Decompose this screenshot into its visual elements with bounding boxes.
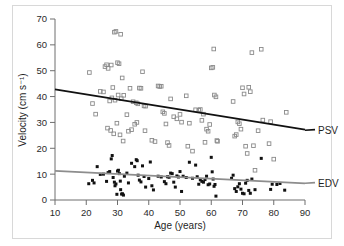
y-tick-label: 60 (36, 39, 47, 50)
scatter-chart: 010203040506070 102030405060708090 PSVED… (0, 0, 344, 246)
data-point-psv (119, 32, 123, 36)
data-point-edv (275, 183, 278, 186)
data-point-psv (191, 149, 195, 153)
x-axis-ticks: 102030405060708090 (50, 200, 311, 218)
data-point-psv (164, 122, 168, 126)
data-point-psv (272, 157, 276, 161)
data-point-edv (149, 160, 152, 163)
data-point-edv (150, 184, 153, 187)
data-point-edv (117, 169, 120, 172)
data-point-psv (91, 102, 95, 106)
data-point-edv (283, 189, 286, 192)
data-point-edv (152, 188, 155, 191)
data-point-edv (93, 181, 96, 184)
data-point-edv (147, 177, 150, 180)
y-tick-label: 70 (36, 13, 47, 24)
data-point-edv (179, 170, 182, 173)
data-point-edv (254, 188, 257, 191)
data-point-psv (245, 152, 249, 156)
x-tick-label: 40 (143, 207, 154, 218)
data-point-psv (125, 113, 129, 117)
data-point-psv (143, 129, 147, 133)
data-point-edv (210, 156, 213, 159)
data-point-edv (214, 195, 217, 198)
data-point-edv (243, 192, 246, 195)
data-point-edv (188, 161, 191, 164)
data-point-edv (139, 180, 142, 183)
data-point-psv (267, 142, 271, 146)
data-point-edv (208, 182, 211, 185)
data-point-psv (184, 94, 188, 98)
data-point-edv (249, 192, 252, 195)
data-point-edv (110, 157, 113, 160)
y-axis-ticks: 010203040506070 (36, 13, 55, 205)
x-tick-label: 80 (268, 207, 279, 218)
data-point-edv (130, 162, 133, 165)
series-label-psv: PSV (318, 125, 338, 136)
series-label-edv: EDV (318, 178, 339, 189)
trendlines-group (55, 89, 305, 183)
x-tick-label: 20 (81, 207, 92, 218)
data-point-edv (239, 188, 242, 191)
data-point-edv (271, 183, 274, 186)
y-tick-label: 40 (36, 91, 47, 102)
y-tick-label: 30 (36, 117, 47, 128)
series-annotations: PSVEDV (305, 125, 339, 189)
data-point-psv (94, 112, 98, 116)
data-point-edv (119, 188, 122, 191)
data-point-edv (260, 157, 263, 160)
data-point-edv (247, 189, 250, 192)
data-point-psv (169, 97, 173, 101)
x-axis-title: Age (years) (154, 220, 206, 231)
x-tick-label: 60 (206, 207, 217, 218)
data-point-edv (205, 175, 208, 178)
data-point-edv (119, 180, 122, 183)
series-leader-psv (305, 130, 315, 131)
data-point-psv (253, 168, 257, 172)
data-point-edv (133, 165, 136, 168)
data-point-edv (127, 181, 130, 184)
data-point-edv (236, 185, 239, 188)
data-point-psv (231, 100, 235, 104)
data-point-edv (114, 182, 117, 185)
data-point-edv (233, 187, 236, 190)
data-point-edv (164, 182, 167, 185)
data-point-psv (121, 139, 125, 143)
data-point-psv (239, 127, 243, 131)
data-point-psv (203, 141, 207, 145)
data-point-edv (96, 165, 99, 168)
data-point-edv (232, 174, 235, 177)
data-point-psv (120, 76, 124, 80)
data-point-psv (141, 70, 145, 74)
data-point-edv (136, 159, 139, 162)
data-point-psv (128, 87, 132, 91)
data-point-psv (88, 71, 92, 75)
data-point-psv (250, 51, 254, 55)
x-tick-label: 70 (237, 207, 248, 218)
data-point-edv (144, 186, 147, 189)
data-point-edv (269, 188, 272, 191)
data-point-edv (111, 154, 114, 157)
data-point-psv (242, 92, 246, 96)
data-point-edv (174, 186, 177, 189)
data-point-psv (247, 85, 251, 89)
data-point-edv (122, 194, 125, 197)
data-point-psv (118, 133, 122, 137)
data-point-edv (172, 181, 175, 184)
data-point-edv (87, 182, 90, 185)
data-point-edv (244, 182, 247, 185)
data-point-psv (249, 90, 253, 94)
series-points-psv (88, 30, 288, 172)
data-point-psv (116, 93, 120, 97)
data-point-psv (200, 119, 204, 123)
data-point-psv (188, 121, 192, 125)
data-point-edv (141, 164, 144, 167)
data-point-edv (115, 193, 118, 196)
data-point-psv (259, 47, 263, 51)
data-point-psv (186, 144, 190, 148)
data-point-psv (212, 47, 216, 51)
data-point-edv (105, 180, 108, 183)
figure-container: 010203040506070 102030405060708090 PSVED… (0, 0, 344, 246)
data-point-psv (111, 86, 115, 90)
data-point-psv (115, 121, 119, 125)
